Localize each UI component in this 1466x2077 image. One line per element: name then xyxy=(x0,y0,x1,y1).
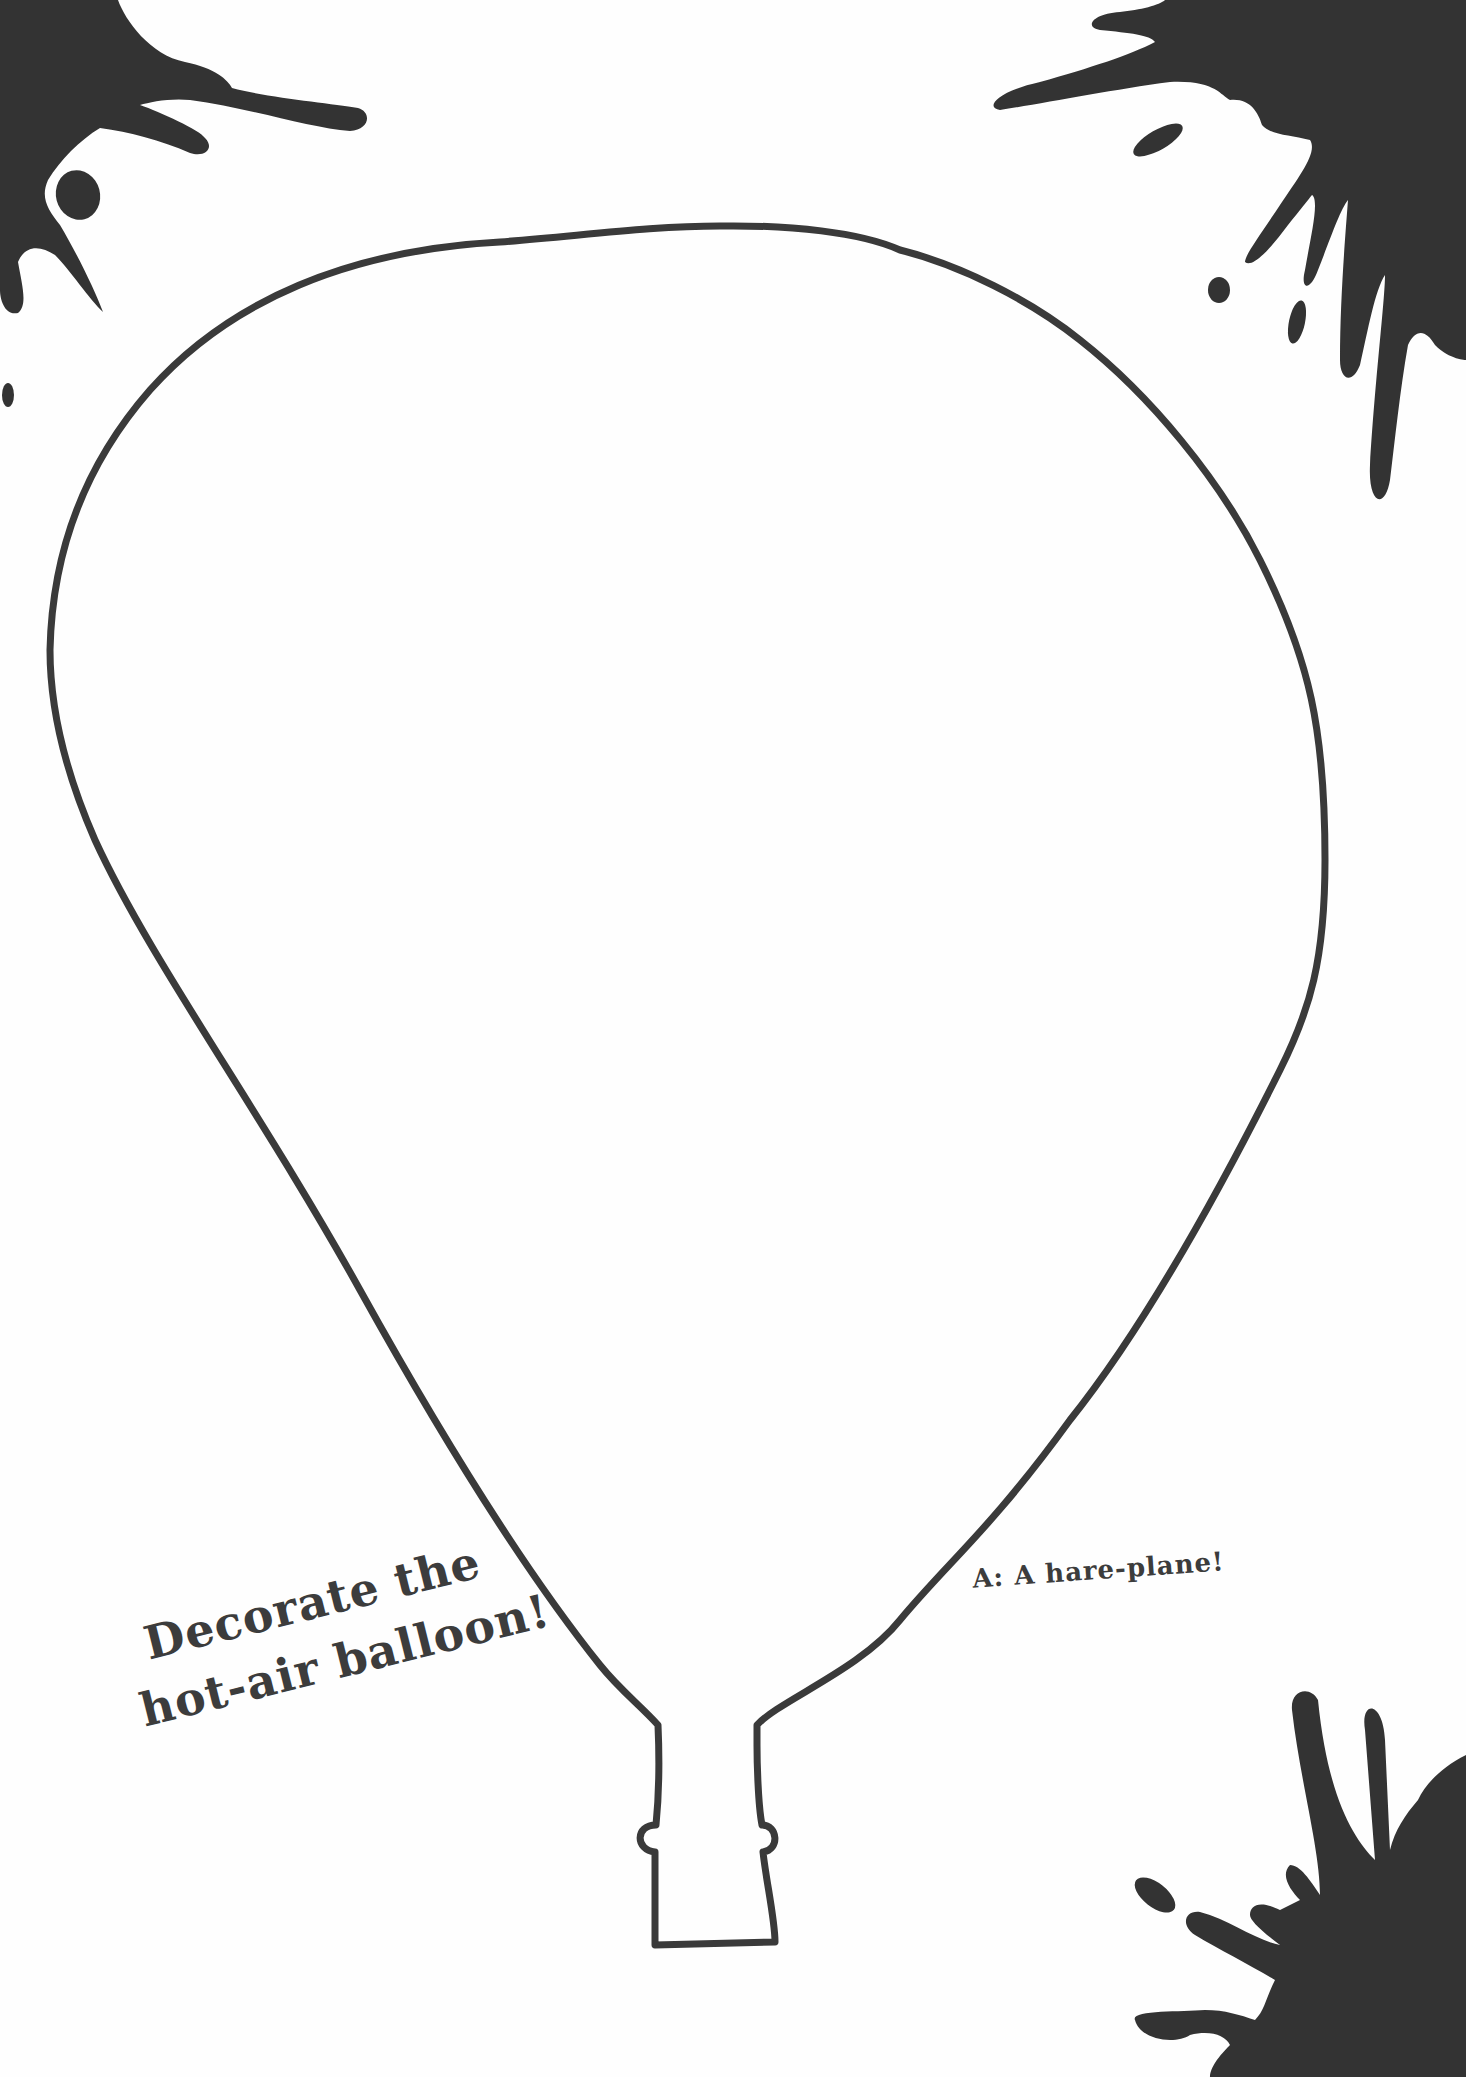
coloring-page: Decorate the hot-air balloon! A: A hare-… xyxy=(0,0,1466,2077)
bottom-right-ink-splat-icon xyxy=(1129,1691,1466,2077)
top-right-ink-splat-icon xyxy=(993,0,1466,499)
artwork-canvas xyxy=(0,0,1466,2077)
top-left-ink-splat-icon xyxy=(0,0,367,407)
